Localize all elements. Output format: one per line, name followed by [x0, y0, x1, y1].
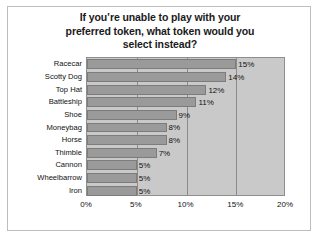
bar: [87, 110, 177, 120]
bar: [87, 72, 226, 82]
bar-value-label: 15%: [236, 60, 254, 69]
category-label: Top Hat: [2, 84, 82, 93]
chart-title: If you’re unable to play with your prefe…: [24, 11, 296, 52]
bar-row: 7%: [87, 148, 284, 158]
bar-value-label: 11%: [196, 98, 213, 107]
category-label: Thimble: [2, 147, 82, 156]
bar: [87, 135, 167, 145]
category-label: Cannon: [2, 160, 82, 169]
bar-value-label: 7%: [157, 148, 171, 157]
bar-value-label: 9%: [177, 110, 191, 119]
bar-row: 8%: [87, 135, 284, 145]
bar: [87, 123, 167, 133]
bar-row: 8%: [87, 123, 284, 133]
plot-area: 15%14%12%11%9%8%8%7%5%5%5%: [86, 57, 285, 196]
plot-inner: 15%14%12%11%9%8%8%7%5%5%5%: [87, 58, 284, 195]
x-tick-label: 5%: [116, 200, 156, 209]
category-label: Moneybag: [2, 122, 82, 131]
bar-row: 14%: [87, 72, 284, 82]
bar-value-label: 8%: [167, 123, 181, 132]
bar-value-label: 5%: [137, 161, 151, 170]
bar-value-label: 5%: [137, 174, 151, 183]
bar: [87, 59, 236, 69]
chart-title-line-1: If you’re unable to play with your: [24, 11, 296, 25]
bar-row: 12%: [87, 85, 284, 95]
chart-title-line-2: preferred token, what token would you: [24, 25, 296, 39]
bar-value-label: 12%: [206, 85, 224, 94]
bar-row: 9%: [87, 110, 284, 120]
category-label: Battleship: [2, 97, 82, 106]
bar: [87, 85, 206, 95]
category-label: Racecar: [2, 59, 82, 68]
bar-value-label: 14%: [226, 72, 244, 81]
category-label: Wheelbarrow: [2, 173, 82, 182]
bar: [87, 186, 137, 196]
category-label: Scotty Dog: [2, 71, 82, 80]
bar: [87, 97, 196, 107]
bar: [87, 173, 137, 183]
bar-row: 15%: [87, 59, 284, 69]
category-label: Shoe: [2, 109, 82, 118]
bar-row: 5%: [87, 160, 284, 170]
bar-row: 5%: [87, 173, 284, 183]
x-tick-label: 0%: [66, 200, 106, 209]
category-label: Iron: [2, 185, 82, 194]
bar: [87, 148, 157, 158]
chart-figure: If you’re unable to play with your prefe…: [0, 0, 319, 238]
bar-value-label: 8%: [167, 136, 181, 145]
x-tick-label: 15%: [215, 200, 255, 209]
bar: [87, 160, 137, 170]
bar-row: 11%: [87, 97, 284, 107]
category-label: Horse: [2, 135, 82, 144]
chart-title-line-3: select instead?: [24, 38, 296, 52]
bar-row: 5%: [87, 186, 284, 196]
x-tick-label: 10%: [166, 200, 206, 209]
x-tick-label: 20%: [265, 200, 305, 209]
bar-value-label: 5%: [137, 186, 151, 195]
